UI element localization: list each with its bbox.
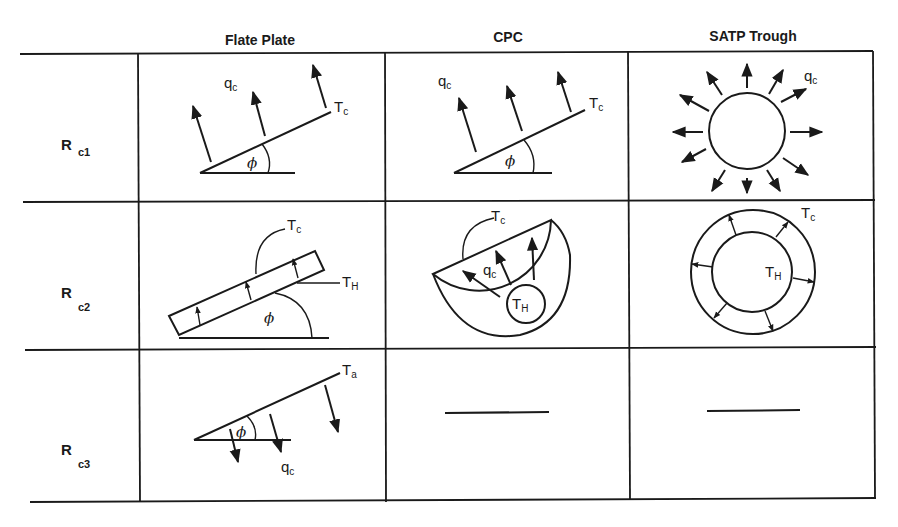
absorber-tube-circle <box>709 93 785 169</box>
label-phi: ϕ <box>505 152 515 170</box>
label-phi: ϕ <box>247 154 257 172</box>
label-tc: Tc <box>287 216 301 235</box>
svg-text:R: R <box>61 136 72 153</box>
label-phi: ϕ <box>236 423 246 441</box>
label-qc: qc <box>438 72 451 91</box>
heat-flow-arrow <box>558 72 571 112</box>
row-label-rc3: R c3 <box>61 441 90 470</box>
column-header-satp-trough: SATP Trough <box>709 28 796 44</box>
heat-flow-arrow <box>507 86 522 131</box>
glass-envelope-circle <box>691 210 815 334</box>
svg-text:c3: c3 <box>78 458 90 470</box>
label-th: TH <box>342 273 358 292</box>
svg-text:c2: c2 <box>78 301 90 313</box>
label-th: TH <box>512 295 528 314</box>
cell-rc1-cpc: qc Tc ϕ <box>438 72 603 173</box>
cell-rc2-cpc: Tc qc TH <box>433 207 570 336</box>
label-phi: ϕ <box>264 309 274 327</box>
label-qc: qc <box>804 67 817 86</box>
label-qc: qc <box>281 458 294 477</box>
label-qc: qc <box>483 261 496 280</box>
svg-text:c1: c1 <box>78 146 90 158</box>
column-header-cpc: CPC <box>493 29 523 45</box>
label-th: TH <box>765 263 781 282</box>
radiating-arrows <box>673 64 822 193</box>
svg-text:R: R <box>61 441 72 458</box>
cell-rc2-satp-trough: Tc TH <box>691 204 815 334</box>
row-label-rc2: R c2 <box>61 284 90 313</box>
cell-rc3-cpc-not-applicable-dash <box>445 412 549 413</box>
heat-flow-arrow <box>253 92 265 136</box>
cell-rc1-flat-plate: qc Tc ϕ <box>193 65 348 173</box>
heat-loss-diagram-table: Flate Plate CPC SATP Trough R c1 R c2 R … <box>0 0 898 527</box>
heat-flow-arrow <box>459 98 476 152</box>
collector-plate-box <box>169 251 324 335</box>
label-tc: Tc <box>801 204 815 223</box>
heat-flow-arrow <box>313 65 326 108</box>
label-qc: qc <box>224 74 237 93</box>
label-tc: Tc <box>589 94 603 113</box>
svg-text:R: R <box>61 284 72 301</box>
label-tc: Tc <box>491 207 505 226</box>
heat-flow-arrow <box>193 106 211 162</box>
cell-rc2-flat-plate: Tc TH ϕ <box>169 216 358 338</box>
cell-rc3-satp-not-applicable-dash <box>707 410 800 411</box>
label-ta: Ta <box>342 361 357 380</box>
label-tc: Tc <box>334 98 348 117</box>
cell-rc1-satp-trough: qc <box>673 64 822 193</box>
column-header-flat-plate: Flate Plate <box>225 32 295 48</box>
cell-rc3-flat-plate: Ta ϕ qc <box>194 361 357 477</box>
row-label-rc1: R c1 <box>61 136 90 158</box>
table-grid <box>20 51 876 502</box>
